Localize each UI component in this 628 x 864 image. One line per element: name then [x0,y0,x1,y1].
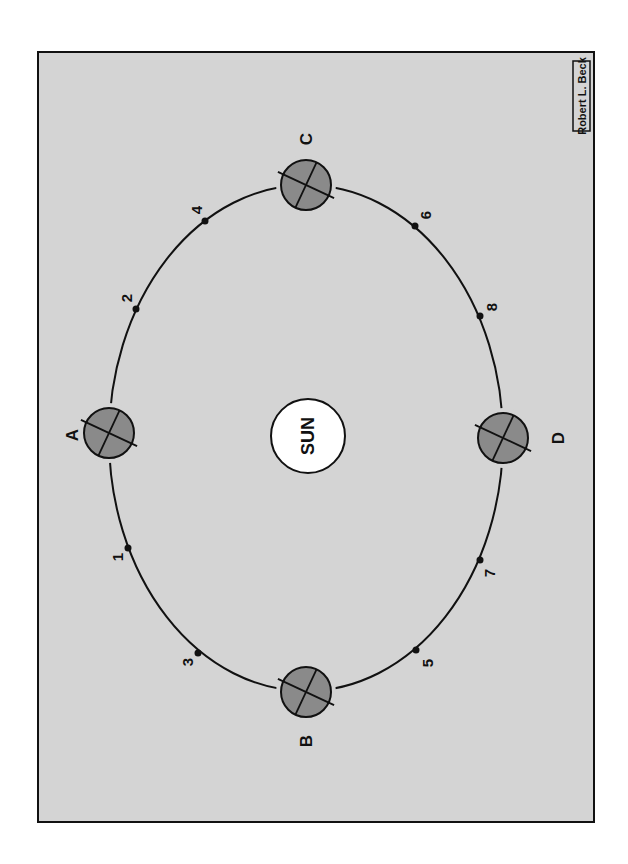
credit-text: Robert L. Beck [576,56,588,135]
position-label: 5 [419,659,436,667]
planet-label: D [549,432,568,444]
position-dot [195,650,202,657]
planet-label: C [297,133,316,145]
position-label: 1 [109,553,126,561]
position-dot [133,306,140,313]
position-dot [477,557,484,564]
position-label: 6 [417,211,434,219]
position-label: 3 [179,658,196,666]
credit-box: Robert L. Beck [573,56,590,135]
sun: SUN [271,399,345,473]
position-dot [202,218,209,225]
position-dot [412,223,419,230]
position-dot [125,545,132,552]
orbit-diagram: SUN ABCD 12345678 Robert L. Beck [0,0,628,864]
planet-label: A [63,429,82,441]
position-label: 7 [481,569,498,577]
position-label: 4 [188,205,205,214]
position-dot [477,313,484,320]
position-label: 8 [483,303,500,311]
position-dot [413,647,420,654]
planet-label: B [297,735,316,747]
sun-label: SUN [298,417,318,455]
position-label: 2 [118,294,135,302]
